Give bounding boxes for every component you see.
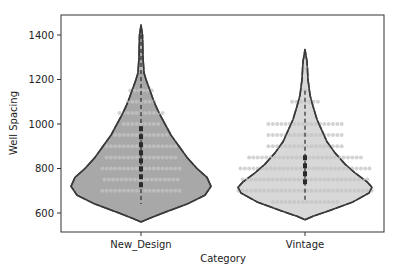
swarm-point bbox=[279, 133, 283, 137]
swarm-point bbox=[316, 167, 320, 171]
swarm-point bbox=[152, 144, 156, 148]
swarm-point bbox=[130, 122, 134, 126]
swarm-point bbox=[305, 133, 309, 137]
swarm-point bbox=[290, 100, 294, 104]
swarm-point bbox=[109, 189, 113, 193]
swarm-point bbox=[118, 155, 122, 159]
swarm-point bbox=[165, 144, 169, 148]
swarm-point bbox=[100, 167, 104, 171]
swarm-point bbox=[290, 167, 294, 171]
swarm-point bbox=[126, 144, 130, 148]
swarm-point bbox=[273, 155, 277, 159]
swarm-point bbox=[316, 100, 320, 104]
swarm-point bbox=[282, 167, 286, 171]
swarm-point bbox=[301, 122, 305, 126]
swarm-point bbox=[292, 133, 296, 137]
swarm-point bbox=[109, 144, 113, 148]
swarm-point bbox=[325, 155, 329, 159]
swarm-point bbox=[284, 144, 288, 148]
swarm-point bbox=[115, 178, 119, 182]
swarm-point bbox=[137, 89, 141, 93]
swarm-point bbox=[130, 111, 134, 115]
swarm-point bbox=[130, 133, 134, 137]
swarm-point bbox=[266, 178, 270, 182]
swarm-point bbox=[269, 167, 273, 171]
swarm-point bbox=[105, 144, 109, 148]
swarm-point bbox=[126, 189, 130, 193]
swarm-point bbox=[148, 100, 152, 104]
x-axis-label: Category bbox=[200, 253, 246, 264]
swarm-point bbox=[331, 133, 335, 137]
swarm-point bbox=[352, 178, 356, 182]
swarm-point bbox=[279, 178, 283, 182]
swarm-point bbox=[243, 167, 247, 171]
swarm-point bbox=[145, 178, 149, 182]
swarm-point bbox=[158, 178, 162, 182]
swarm-point bbox=[275, 189, 279, 193]
swarm-point bbox=[124, 178, 128, 182]
swarm-point bbox=[111, 178, 115, 182]
swarm-point bbox=[297, 189, 301, 193]
swarm-point bbox=[322, 144, 326, 148]
swarm-point bbox=[286, 155, 290, 159]
x-tick-label: New_Design bbox=[110, 239, 171, 251]
swarm-point bbox=[143, 167, 147, 171]
swarm-point bbox=[254, 178, 258, 182]
swarm-point bbox=[288, 133, 292, 137]
swarm-point bbox=[256, 155, 260, 159]
swarm-point bbox=[173, 189, 177, 193]
swarm-point bbox=[284, 178, 288, 182]
swarm-point bbox=[150, 178, 154, 182]
swarm-point bbox=[143, 122, 147, 126]
swarm-point bbox=[314, 133, 318, 137]
swarm-point bbox=[161, 133, 165, 137]
swarm-point bbox=[357, 178, 361, 182]
swarm-point bbox=[312, 167, 316, 171]
swarm-point bbox=[135, 100, 139, 104]
swarm-point bbox=[113, 133, 117, 137]
swarm-point bbox=[173, 155, 177, 159]
swarm-point bbox=[329, 155, 333, 159]
swarm-point bbox=[288, 189, 292, 193]
swarm-point bbox=[305, 200, 309, 204]
swarm-point bbox=[173, 167, 177, 171]
swarm-point bbox=[135, 111, 139, 115]
swarm-point bbox=[301, 200, 305, 204]
swarm-point bbox=[122, 133, 126, 137]
swarm-point bbox=[284, 189, 288, 193]
swarm-point bbox=[266, 144, 270, 148]
swarm-point bbox=[359, 155, 363, 159]
swarm-point bbox=[161, 189, 165, 193]
swarm-point bbox=[292, 144, 296, 148]
swarm-point bbox=[333, 167, 337, 171]
swarm-point bbox=[292, 178, 296, 182]
swarm-point bbox=[271, 178, 275, 182]
swarm-point bbox=[342, 167, 346, 171]
swarm-point bbox=[262, 189, 266, 193]
x-tick-label: Vintage bbox=[286, 239, 324, 250]
swarm-point bbox=[327, 189, 331, 193]
swarm-point bbox=[314, 178, 318, 182]
swarm-point bbox=[130, 100, 134, 104]
swarm-point bbox=[301, 144, 305, 148]
swarm-point bbox=[148, 189, 152, 193]
swarm-point bbox=[169, 189, 173, 193]
swarm-point bbox=[318, 178, 322, 182]
swarm-point bbox=[335, 200, 339, 204]
swarm-point bbox=[322, 178, 326, 182]
swarm-point bbox=[314, 122, 318, 126]
swarm-point bbox=[277, 167, 281, 171]
swarm-point bbox=[165, 189, 169, 193]
swarm-point bbox=[292, 200, 296, 204]
swarm-point bbox=[309, 200, 313, 204]
y-axis-label: Well Spacing bbox=[8, 91, 19, 155]
y-tick-label: 800 bbox=[35, 163, 54, 174]
swarm-point bbox=[340, 122, 344, 126]
swarm-point bbox=[297, 178, 301, 182]
y-tick-label: 1400 bbox=[29, 30, 54, 41]
swarm-point bbox=[154, 178, 158, 182]
swarm-point bbox=[143, 111, 147, 115]
swarm-point bbox=[249, 189, 253, 193]
swarm-point bbox=[148, 133, 152, 137]
swarm-point bbox=[279, 189, 283, 193]
